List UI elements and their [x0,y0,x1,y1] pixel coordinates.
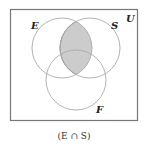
venn-diagram: E S U F (E ∩ S) [0,0,146,145]
label-f: F [95,104,104,115]
label-u: U [126,13,136,24]
label-e: E [30,20,39,31]
caption: (E ∩ S) [57,131,90,141]
label-s: S [111,20,118,31]
